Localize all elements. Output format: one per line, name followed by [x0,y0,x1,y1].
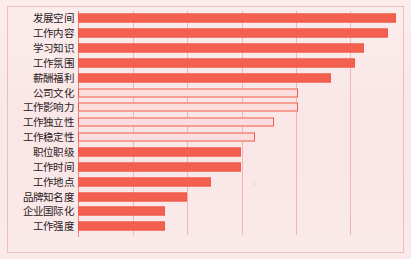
bar-category-label: 工作稳定性 [23,132,75,143]
bar-row: 学习知识 [0,41,411,56]
bar [78,44,364,53]
bar-row: 工作地点 [0,174,411,189]
plot-area: 发展空间工作内容学习知识工作氛围薪酬福利公司文化工作影响力工作独立性工作稳定性职… [0,0,411,259]
bar [78,133,255,142]
bar-category-label: 学习知识 [33,43,74,54]
bar-row: 工作独立性 [0,115,411,130]
bar-row: 职位职级 [0,145,411,160]
bar-row: 发展空间 [0,11,411,26]
bar-category-label: 工作时间 [33,162,74,173]
bar-category-label: 工作地点 [33,176,74,187]
bar [78,148,241,157]
horizontal-bar-chart: 发展空间工作内容学习知识工作氛围薪酬福利公司文化工作影响力工作独立性工作稳定性职… [0,0,411,259]
bar [78,103,298,112]
bar [78,73,331,82]
bar-row: 薪酬福利 [0,70,411,85]
bar-row: 工作稳定性 [0,130,411,145]
bar-row: 企业国际化 [0,204,411,219]
bar-row: 工作时间 [0,160,411,175]
bar [78,29,388,38]
bar-category-label: 工作内容 [33,28,74,39]
bar [78,88,298,97]
bar-category-label: 薪酬福利 [33,73,74,84]
bar-category-label: 企业国际化 [23,206,75,217]
bar [78,14,396,23]
bar [78,162,241,171]
bar-row: 工作氛围 [0,56,411,71]
bar-category-label: 工作影响力 [23,102,75,113]
bar-category-label: 工作独立性 [23,117,75,128]
bar-row: 工作影响力 [0,100,411,115]
bar [78,177,211,186]
bar-category-label: 工作强度 [33,221,74,232]
bar-category-label: 公司文化 [33,87,74,98]
bar [78,207,165,216]
bar [78,222,165,231]
bar-row: 公司文化 [0,85,411,100]
bar [78,58,355,67]
bar-row: 品牌知名度 [0,189,411,204]
bar [78,118,274,127]
bar-category-label: 发展空间 [33,13,74,24]
bar-row: 工作内容 [0,26,411,41]
bar-row: 工作强度 [0,219,411,234]
bar [78,192,187,201]
bar-category-label: 工作氛围 [33,58,74,69]
bar-category-label: 职位职级 [33,147,74,158]
bar-category-label: 品牌知名度 [23,191,75,202]
